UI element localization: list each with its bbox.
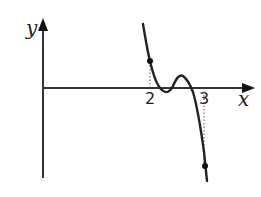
y-axis-label: y	[25, 16, 38, 40]
point-at-x3	[202, 163, 208, 169]
point-at-x2	[147, 58, 153, 64]
y-axis-arrow-icon	[38, 18, 48, 31]
y-axis	[38, 18, 48, 178]
function-graph: y x 2 3	[0, 0, 261, 197]
tick-label-2: 2	[145, 89, 155, 108]
x-axis-label: x	[238, 87, 249, 111]
